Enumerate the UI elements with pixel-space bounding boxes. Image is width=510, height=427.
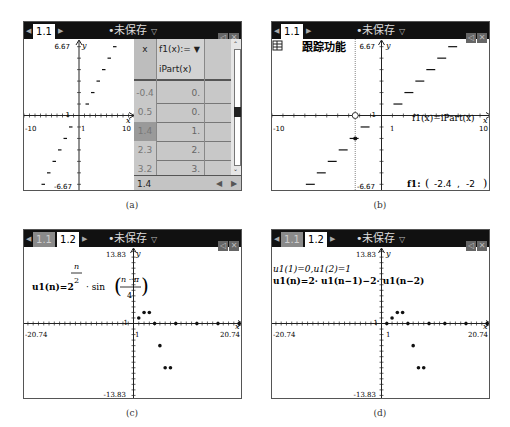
trace-x-value[interactable]: -2.4 bbox=[434, 179, 452, 189]
cell-x[interactable]: 2.3 bbox=[134, 141, 156, 160]
y-axis-label: y bbox=[385, 249, 391, 258]
column-divider bbox=[204, 39, 205, 175]
chevron-down-icon[interactable]: ▽ bbox=[399, 27, 405, 36]
x-min-label: -20.74 bbox=[25, 331, 48, 339]
triangle-down-icon[interactable]: ▼ bbox=[194, 45, 200, 54]
sequence-point bbox=[169, 366, 173, 370]
x-max-label: 10 bbox=[122, 125, 131, 133]
graph-area[interactable]: u1(1)=0,u1(2)=1 u1(n)=2· u1(n−1)−2· u1(n… bbox=[272, 247, 490, 399]
sequence-point bbox=[195, 322, 199, 326]
chevron-down-icon[interactable]: ▽ bbox=[151, 27, 157, 36]
document-title-text: •未保存 bbox=[108, 232, 148, 245]
fraction-denominator: 4 bbox=[127, 291, 132, 300]
table-row[interactable]: 1.41. bbox=[134, 122, 231, 142]
window-buttons: ◁✕ bbox=[217, 25, 239, 36]
y-tick-label: 1 bbox=[66, 111, 70, 119]
y-min-label: -6.67 bbox=[54, 183, 72, 191]
document-title[interactable]: •未保存 ▽ bbox=[272, 23, 489, 39]
sequence-point bbox=[163, 366, 167, 370]
function-label[interactable]: f1(x)=iPart(x) bbox=[412, 113, 475, 123]
column-header-x[interactable]: x bbox=[134, 39, 156, 79]
chevron-down-icon[interactable]: ▽ bbox=[399, 235, 405, 244]
recurrence-formula[interactable]: u1(n)=2· u1(n−1)−2· u1(n−2) bbox=[273, 276, 424, 286]
trace-mode-label: 跟踪功能 bbox=[302, 40, 346, 54]
table-panel: x f1(x):= ▼ iPart(x) -0.40.0.50.1.41.2.3… bbox=[134, 39, 242, 191]
cell-f1[interactable]: 0. bbox=[156, 103, 204, 122]
scroll-down-icon[interactable]: ⌄ bbox=[233, 165, 238, 172]
sequence-point bbox=[148, 311, 152, 315]
cell-f1[interactable]: 0. bbox=[156, 84, 204, 103]
initial-conditions[interactable]: u1(1)=0,u1(2)=1 bbox=[273, 264, 351, 274]
x-min-label: -10 bbox=[273, 125, 284, 133]
paren-open: ( bbox=[425, 177, 429, 190]
chevron-down-icon[interactable]: ▽ bbox=[151, 235, 157, 244]
nav-right-icon[interactable]: ▶ bbox=[231, 179, 237, 188]
y-min-label: -13.83 bbox=[354, 391, 376, 399]
exponent-denominator: 2 bbox=[74, 276, 79, 285]
entry-value[interactable]: 1.4 bbox=[137, 179, 151, 189]
sequence-point bbox=[464, 322, 468, 326]
trace-readout: f1: ( -2.4 , -2 ) bbox=[407, 177, 487, 190]
y-axis-label: y bbox=[81, 41, 87, 50]
document-title[interactable]: •未保存 ▽ bbox=[24, 231, 241, 247]
scroll-thumb[interactable] bbox=[234, 107, 241, 117]
panel-c: ◀ 1.1 1.2 ▶ •未保存 ▽ ◁✕ u1(n)=2 n 2 · sin … bbox=[23, 229, 242, 399]
x-tick-label: 1 bbox=[390, 125, 394, 133]
trace-axis-marker[interactable] bbox=[352, 113, 358, 119]
paren-close: ) bbox=[141, 274, 149, 298]
title-bar: ◀ 1.1 1.2 ▶ •未保存 ▽ ◁✕ bbox=[24, 230, 241, 247]
column-divider bbox=[156, 39, 157, 175]
header-divider bbox=[134, 79, 231, 81]
exponent-numerator: n bbox=[74, 262, 79, 271]
sequence-point bbox=[390, 316, 394, 320]
title-bar: ◀ 1.1 1.2 ▶ •未保存 ▽ ◁✕ bbox=[272, 230, 489, 247]
scrollbar[interactable]: ⌃ ⌄ bbox=[231, 39, 242, 175]
x-min-label: -10 bbox=[25, 125, 36, 133]
scroll-up-icon[interactable]: ⌃ bbox=[233, 40, 238, 47]
trace-point[interactable] bbox=[353, 136, 357, 140]
x-max-label: 20.74 bbox=[220, 331, 241, 339]
document-title[interactable]: •未保存 ▽ bbox=[272, 231, 489, 247]
sequence-point bbox=[216, 322, 220, 326]
trace-readout-name: f1: bbox=[407, 179, 420, 189]
cell-x[interactable]: 1.4 bbox=[134, 122, 156, 141]
sequence-point bbox=[427, 322, 431, 326]
cell-x[interactable]: -0.4 bbox=[134, 84, 156, 103]
y-min-label: -13.83 bbox=[104, 391, 126, 399]
cell-f1[interactable]: 1. bbox=[156, 122, 204, 141]
sequence-point bbox=[137, 316, 141, 320]
sequence-point bbox=[443, 322, 447, 326]
sequence-point bbox=[153, 322, 157, 326]
x-tick-label: 1 bbox=[81, 125, 85, 133]
trace-y-value[interactable]: -2 bbox=[466, 179, 475, 189]
table-row[interactable]: 0.50. bbox=[134, 103, 231, 123]
sequence-point bbox=[158, 344, 162, 348]
graph-area[interactable]: 跟踪功能 f1(x)=iPart(x) f1: ( -2.4 , -2 ) 6.… bbox=[272, 39, 490, 191]
y-axis-label: y bbox=[135, 249, 141, 258]
graph-area[interactable]: u1(n)=2 n 2 · sin ( n · π 4 ) 13.83 -13.… bbox=[24, 247, 242, 399]
sequence-point bbox=[385, 322, 389, 326]
entry-line[interactable]: 1.4 ◀ ▶ bbox=[134, 175, 242, 191]
document-title[interactable]: •未保存 ▽ bbox=[24, 23, 241, 39]
cell-x[interactable]: 0.5 bbox=[134, 103, 156, 122]
cell-f1[interactable]: 2. bbox=[156, 141, 204, 160]
title-bar: ◀ 1.1 ▶ •未保存 ▽ ◁✕ bbox=[24, 22, 241, 39]
tool-icon[interactable] bbox=[273, 41, 282, 50]
x-max-label: 20.74 bbox=[468, 331, 489, 339]
nav-left-icon[interactable]: ◀ bbox=[216, 179, 222, 188]
document-title-text: •未保存 bbox=[108, 24, 148, 37]
sequence-point bbox=[401, 311, 405, 315]
x-max-label: 10 bbox=[479, 125, 488, 133]
fraction-numerator: n · π bbox=[121, 275, 140, 284]
table-row[interactable]: -0.40. bbox=[134, 84, 231, 104]
y-tick-label: 1 bbox=[374, 319, 378, 327]
column-header-f1[interactable]: f1(x):= ▼ bbox=[156, 39, 204, 59]
table-row[interactable]: 2.32. bbox=[134, 141, 231, 161]
window-buttons: ◁✕ bbox=[217, 233, 239, 244]
y-max-label: 6.67 bbox=[54, 43, 70, 51]
formula-cell[interactable]: iPart(x) bbox=[156, 59, 204, 79]
sequence-formula[interactable]: u1(n)=2 n 2 · sin ( n · π 4 ) bbox=[32, 262, 149, 300]
caption-b: (b) bbox=[365, 200, 395, 210]
column-header-f1-text: f1(x):= bbox=[159, 44, 191, 54]
graph-area[interactable]: 6.67 -6.67 -10 10 1 1 x y bbox=[24, 39, 134, 191]
